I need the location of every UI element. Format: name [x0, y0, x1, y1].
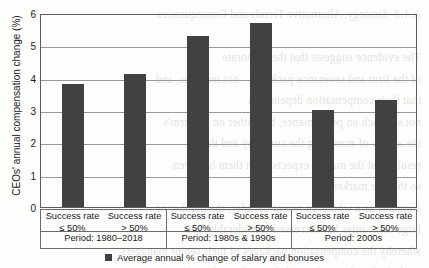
plot-area [40, 14, 417, 208]
category-line-1: Success rate [41, 211, 104, 223]
period-label-0: Period: 1980–2018 [41, 233, 166, 243]
label-band-left-border [40, 209, 41, 249]
y-axis-label: CEOs' annual compensation change (%) [11, 1, 22, 211]
bar-1 [124, 74, 146, 207]
label-band-right-border [416, 209, 417, 249]
label-band-top-border [40, 209, 417, 210]
legend-label-0: Average annual % change of salary and bo… [117, 252, 324, 263]
group-row-divider-2 [167, 231, 291, 232]
gridline-4 [41, 80, 416, 81]
bar-4 [312, 110, 334, 207]
period-labels: Period: 1980–2018 Period: 1980s & 1990s … [40, 232, 417, 249]
chart-legend: Average annual % change of salary and bo… [0, 252, 429, 263]
gridline-3 [41, 112, 416, 113]
bar-chart: A.1.3 Strategy, Alternative Trends and C… [0, 0, 429, 268]
category-line-1: Success rate [291, 211, 354, 223]
label-band-bottom-border [40, 248, 417, 249]
gridline-1 [41, 177, 416, 178]
bar-5 [375, 100, 397, 207]
period-label-1: Period: 1980s & 1990s [166, 233, 291, 243]
category-line-1: Success rate [354, 211, 417, 223]
group-row-divider-1 [41, 231, 166, 232]
group-separator-1 [166, 209, 167, 249]
period-label-2: Period: 2000s [291, 233, 416, 243]
group-separator-2 [291, 209, 292, 249]
category-line-1: Success rate [166, 211, 229, 223]
gridline-2 [41, 144, 416, 145]
legend-swatch-icon [105, 254, 112, 261]
bar-3 [250, 23, 272, 207]
bar-2 [187, 36, 209, 207]
gridline-5 [41, 47, 416, 48]
category-line-1: Success rate [229, 211, 292, 223]
category-line-1: Success rate [103, 211, 166, 223]
bar-0 [62, 84, 84, 207]
group-row-divider-3 [292, 231, 416, 232]
